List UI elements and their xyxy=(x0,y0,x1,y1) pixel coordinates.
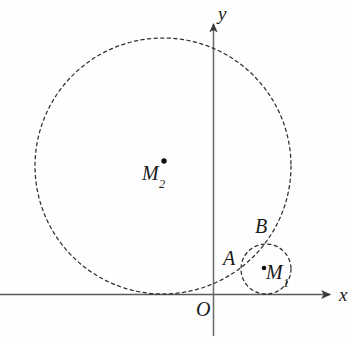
figure-canvas xyxy=(0,0,355,347)
point-label-a: A xyxy=(223,248,235,268)
origin-label: O xyxy=(196,299,210,319)
y-axis-label: y xyxy=(218,4,226,23)
point-label-b: B xyxy=(255,216,267,236)
center-label-m2-base: M xyxy=(142,162,159,184)
center-label-m1-base: M xyxy=(266,261,283,283)
circle-center-label-m2: M2 xyxy=(142,163,165,187)
geometry-figure: y x O A B M1 M2 xyxy=(0,0,355,347)
center-label-m1-subscript: 1 xyxy=(283,276,289,290)
circle-center-label-m1: M1 xyxy=(266,262,289,286)
x-axis-label: x xyxy=(339,285,347,304)
center-label-m2-subscript: 2 xyxy=(159,177,165,191)
